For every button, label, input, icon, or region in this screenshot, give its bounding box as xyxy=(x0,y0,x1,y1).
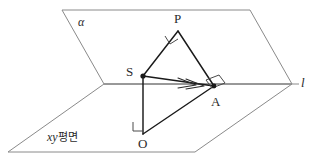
vertex-dot-a xyxy=(212,84,217,89)
label-plane-xy-korean: 평면 xyxy=(58,131,78,144)
label-line-l: l xyxy=(301,76,305,89)
label-plane-xy: xy평면 xyxy=(47,131,78,143)
label-plane-alpha: α xyxy=(78,16,84,28)
segment-sp xyxy=(143,31,178,76)
right-angle-mark-o xyxy=(133,122,143,131)
segment-oa xyxy=(143,86,214,134)
segment-pa xyxy=(178,31,214,86)
vertex-dot-s xyxy=(140,73,145,78)
label-point-o: O xyxy=(138,137,147,150)
label-plane-xy-italic: xy xyxy=(47,130,58,144)
label-point-a: A xyxy=(211,95,220,108)
geometry-figure: α P S A O l xy평면 xyxy=(0,0,315,161)
label-point-p: P xyxy=(174,12,181,25)
label-point-s: S xyxy=(126,65,133,78)
